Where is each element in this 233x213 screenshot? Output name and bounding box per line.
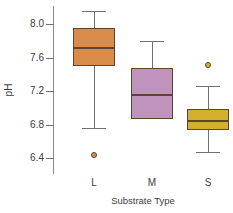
whisker-cap-upper — [140, 41, 164, 42]
y-axis-tick — [46, 24, 54, 25]
median-line — [187, 120, 229, 122]
median-line — [73, 47, 115, 49]
outlier-point[interactable] — [91, 152, 97, 158]
x-axis-tick-label-m: M — [137, 178, 167, 188]
y-axis-title: pH — [4, 75, 14, 105]
median-line — [131, 94, 173, 96]
y-axis-tick-label: 8.0 — [16, 19, 44, 29]
y-axis-tick — [46, 125, 54, 126]
whisker-cap-lower — [196, 152, 220, 153]
y-axis-tick-label: 6.8 — [16, 120, 44, 130]
x-axis-title: Substrate Type — [53, 196, 233, 206]
whisker-cap-lower — [82, 128, 106, 129]
y-axis-tick — [46, 91, 54, 92]
whisker-upper — [152, 41, 153, 68]
y-axis-tick-label: 7.2 — [16, 86, 44, 96]
box-plot-chart: 6.46.87.27.68.0 pH LMS Substrate Type — [0, 0, 233, 213]
whisker-cap-upper — [196, 86, 220, 87]
x-axis-tick-label-s: S — [193, 178, 223, 188]
y-axis-tick-label: 7.6 — [16, 53, 44, 63]
whisker-lower — [94, 66, 95, 128]
whisker-cap-upper — [82, 11, 106, 12]
y-axis-tick — [46, 58, 54, 59]
outlier-point[interactable] — [205, 62, 211, 68]
y-axis-tick — [46, 158, 54, 159]
whisker-upper — [208, 86, 209, 109]
y-axis-line — [53, 6, 54, 174]
y-axis-tick-label: 6.4 — [16, 153, 44, 163]
whisker-lower — [208, 130, 209, 152]
x-axis-tick-label-l: L — [79, 178, 109, 188]
whisker-upper — [94, 11, 95, 29]
